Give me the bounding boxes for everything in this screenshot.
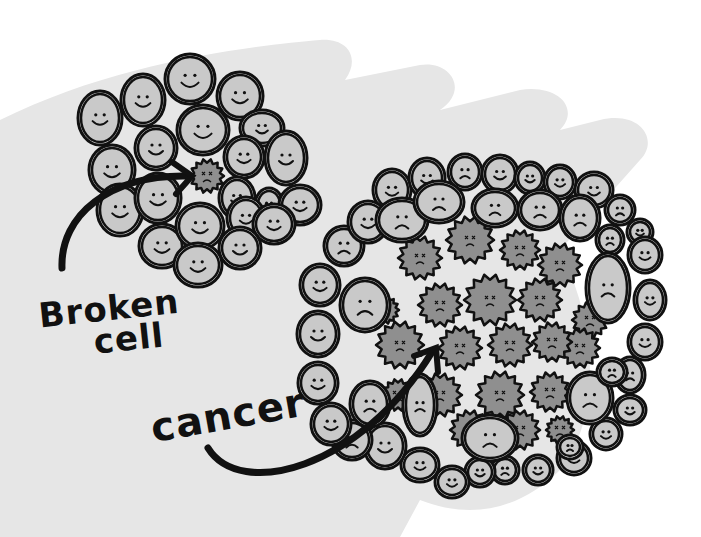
healthy-cell — [174, 243, 222, 287]
cell-illustration-canvas — [0, 0, 701, 537]
healthy-cell — [311, 403, 351, 445]
sad-cell — [560, 195, 600, 241]
sad-cell — [586, 253, 630, 323]
healthy-cell — [401, 448, 439, 482]
healthy-cell — [78, 91, 122, 145]
healthy-cell — [634, 280, 666, 320]
sad-cell — [597, 358, 627, 386]
healthy-cell — [297, 311, 339, 357]
healthy-cell — [523, 455, 553, 485]
healthy-cell — [121, 74, 165, 126]
sad-cell — [557, 435, 583, 459]
sad-cell — [414, 181, 464, 223]
sad-cell — [340, 278, 390, 332]
healthy-cell — [628, 324, 662, 360]
sad-cell — [596, 225, 624, 255]
healthy-cell — [435, 466, 469, 498]
sad-cell — [462, 415, 518, 461]
healthy-cell — [177, 105, 229, 155]
healthy-cell — [628, 237, 662, 273]
cancer-illustration: Broken cell cancer — [0, 0, 701, 537]
sad-cell — [518, 190, 562, 230]
healthy-cell — [614, 395, 646, 425]
sad-cell — [350, 381, 390, 427]
healthy-cell — [224, 136, 264, 178]
healthy-cell — [300, 264, 340, 306]
broken-cell-label: Broken cell — [37, 285, 184, 363]
healthy-cell — [265, 131, 307, 185]
sad-cell — [605, 195, 635, 225]
sad-cell — [472, 189, 518, 227]
healthy-cell — [482, 155, 518, 193]
healthy-cell — [165, 54, 215, 104]
healthy-cell — [219, 227, 261, 269]
